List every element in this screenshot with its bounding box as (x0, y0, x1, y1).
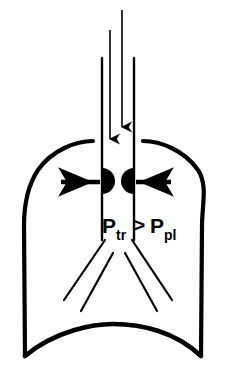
airway-bulge-left-icon (102, 168, 115, 194)
bronchi-group (64, 240, 172, 311)
p-tr-subscript: tr (116, 227, 127, 243)
airway-bulge-right-icon (121, 168, 134, 194)
bronchus-right-upper (132, 240, 172, 300)
bronchus-left-lower (81, 253, 113, 311)
p-pl-subscript: pl (164, 227, 176, 243)
thorax-wall-right (143, 141, 204, 356)
p-tr-base: P (102, 214, 116, 237)
thorax-pressure-diagram: P tr > P pl (0, 0, 226, 372)
diaphragm (25, 324, 201, 356)
p-pl-base: P (150, 214, 164, 237)
figure-container: P tr > P pl (0, 0, 226, 372)
pressure-equation-label: P tr > P pl (102, 213, 176, 243)
trachea-group (102, 58, 134, 240)
thorax-wall-left (24, 141, 93, 356)
airway-bulge-group (102, 168, 134, 194)
greater-than-operator: > (133, 213, 145, 236)
bronchus-left-upper (64, 240, 105, 300)
bronchus-right-lower (125, 253, 157, 311)
airflow-arrows-group (110, 10, 122, 139)
thorax-outline-group (24, 141, 204, 356)
